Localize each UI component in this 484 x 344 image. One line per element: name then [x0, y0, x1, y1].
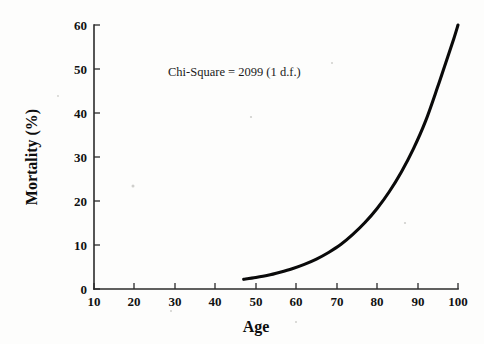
y-tick-label-60: 60 [74, 18, 87, 33]
y-axis-title: Mortality (%) [23, 109, 41, 205]
y-tick-label-10: 10 [74, 238, 87, 253]
mortality-by-age-chart: 0 10 20 30 40 50 60 Mortality (%) [0, 0, 484, 344]
scan-noise [57, 62, 406, 323]
x-tick-label-90: 90 [412, 294, 425, 309]
y-tick-label-40: 40 [74, 106, 87, 121]
chi-square-annotation: Chi-Square = 2099 (1 d.f.) [168, 65, 301, 79]
y-axis-tick-labels: 0 10 20 30 40 50 60 [74, 18, 87, 297]
x-tick-label-60: 60 [290, 294, 303, 309]
y-axis: 0 10 20 30 40 50 60 Mortality (%) [23, 18, 100, 297]
chart-canvas: 0 10 20 30 40 50 60 Mortality (%) [0, 0, 484, 344]
x-tick-label-100: 100 [448, 294, 468, 309]
y-tick-label-0: 0 [81, 282, 88, 297]
x-tick-label-10: 10 [88, 294, 101, 309]
x-axis-ticks [94, 283, 458, 289]
y-tick-label-50: 50 [74, 62, 87, 77]
y-tick-label-20: 20 [74, 194, 87, 209]
x-tick-label-30: 30 [169, 294, 182, 309]
x-tick-label-70: 70 [331, 294, 344, 309]
x-tick-label-50: 50 [250, 294, 263, 309]
mortality-curve [244, 25, 458, 279]
x-axis-title: Age [243, 318, 270, 336]
x-tick-label-80: 80 [371, 294, 384, 309]
x-tick-label-20: 20 [128, 294, 141, 309]
x-tick-label-40: 40 [209, 294, 222, 309]
y-tick-label-30: 30 [74, 150, 87, 165]
x-axis: 10 20 30 40 50 60 70 80 90 100 Age [88, 283, 468, 336]
x-axis-tick-labels: 10 20 30 40 50 60 70 80 90 100 [88, 294, 468, 309]
y-axis-ticks [94, 25, 100, 289]
